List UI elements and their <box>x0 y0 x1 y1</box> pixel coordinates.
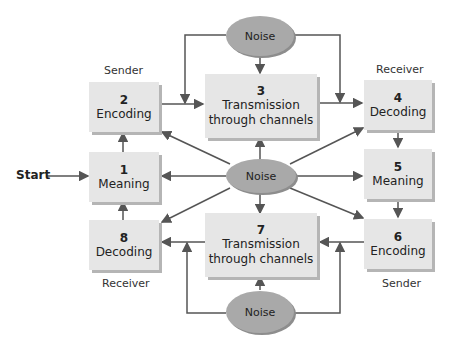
step-number: 5 <box>364 160 432 174</box>
step-number: 1 <box>89 163 159 177</box>
step-box-7-transmission: 7 Transmission through channels <box>205 213 317 277</box>
step-number: 7 <box>205 223 317 237</box>
step-label: Transmission through channels <box>205 98 317 128</box>
noise-ellipse-top: Noise <box>226 16 294 56</box>
step-box-1-meaning: 1 Meaning <box>89 152 159 202</box>
step-label: Transmission through channels <box>205 237 317 267</box>
role-sender-top: Sender <box>104 64 143 77</box>
step-number: 4 <box>364 91 432 105</box>
noise-ellipse-bottom: Noise <box>226 291 294 333</box>
step-label: Encoding <box>364 244 432 259</box>
role-receiver-bottom: Receiver <box>102 277 150 290</box>
step-label: Decoding <box>364 105 432 120</box>
step-box-4-decoding: 4 Decoding <box>364 80 432 130</box>
step-label: Encoding <box>89 107 159 122</box>
step-box-5-meaning: 5 Meaning <box>364 149 432 199</box>
role-receiver-top: Receiver <box>376 63 424 76</box>
step-box-6-encoding: 6 Encoding <box>364 219 432 269</box>
step-label: Decoding <box>89 245 159 260</box>
step-number: 8 <box>89 231 159 245</box>
start-label: Start <box>16 168 50 182</box>
step-box-3-transmission: 3 Transmission through channels <box>205 74 317 138</box>
step-label: Meaning <box>89 177 159 192</box>
step-number: 6 <box>364 230 432 244</box>
step-number: 2 <box>89 93 159 107</box>
step-label: Meaning <box>364 174 432 189</box>
step-box-8-decoding: 8 Decoding <box>89 220 159 270</box>
role-sender-bottom: Sender <box>382 277 421 290</box>
step-number: 3 <box>205 84 317 98</box>
step-box-2-encoding: 2 Encoding <box>89 82 159 132</box>
noise-ellipse-center: Noise <box>226 159 296 193</box>
